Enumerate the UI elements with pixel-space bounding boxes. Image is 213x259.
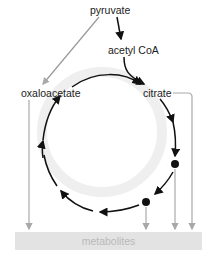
- cycle-arrow-4: [100, 205, 139, 212]
- cycle-arrow-3: [155, 172, 173, 194]
- label-metabolites: metabolites: [15, 235, 202, 247]
- label-pyruvate: pyruvate: [90, 4, 130, 16]
- intermediate-node-1: [171, 160, 179, 168]
- label-citrate: citrate: [143, 87, 172, 99]
- label-oxaloacetate: oxaloacetate: [21, 87, 81, 99]
- arrow-pyruvate-to-acetyl-coa: [117, 17, 121, 39]
- cycle-arrow-6: [42, 141, 43, 158]
- label-acetyl-coa: acetyl CoA: [108, 44, 159, 56]
- metabolites-box: metabolites: [15, 232, 202, 250]
- cycle-diagram: [0, 0, 213, 259]
- cycle-arrow-citrate-2: [173, 122, 176, 156]
- intermediate-node-2: [142, 198, 150, 206]
